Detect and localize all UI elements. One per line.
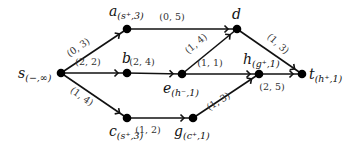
edge-label-s-b: (2, 2): [75, 56, 101, 67]
node-s: [57, 69, 66, 78]
edge-label-d-t: (1, 3): [265, 31, 291, 56]
flow-network-diagram: (0, 3)(0, 5)(2, 2)(2, 4)(1, 4)(1, 1)(1, …: [0, 0, 361, 147]
edge-label-g-h: (1, 3): [204, 90, 231, 113]
node-label-h: h(g⁺,1): [243, 51, 280, 69]
node-t: [298, 70, 307, 79]
node-g: [189, 114, 198, 123]
node-e: [178, 70, 187, 79]
node-label-d: d: [232, 6, 241, 22]
node-label-a: a(s⁺,3): [109, 3, 144, 21]
edge-label-e-h: (1, 1): [197, 57, 223, 68]
node-a: [123, 25, 132, 34]
edge-s-c: [61, 73, 127, 118]
node-c: [123, 114, 132, 123]
edge-label-a-d: (0, 5): [159, 11, 185, 22]
edge-label-e-d: (1, 4): [182, 31, 209, 56]
edge-label-h-t: (2, 5): [259, 81, 285, 92]
node-label-b: b: [122, 50, 131, 66]
node-label-s: s(−,∞): [18, 65, 52, 83]
node-h: [255, 70, 264, 79]
node-b: [123, 69, 132, 78]
node-label-t: t(h⁺,1): [309, 66, 343, 84]
edge-label-b-e: (2, 4): [129, 56, 155, 67]
node-d: [233, 25, 242, 34]
node-label-g: g(c⁺,1): [174, 123, 210, 141]
node-label-e: e(h⁻,1): [163, 80, 199, 98]
